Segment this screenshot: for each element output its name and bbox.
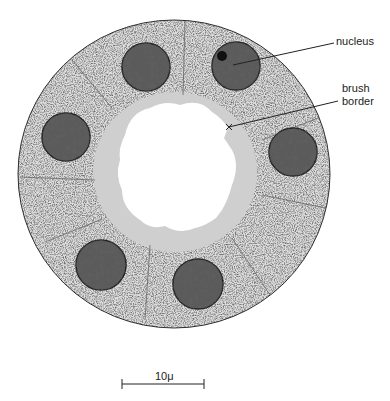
nucleus-3 — [42, 113, 90, 161]
brush-border-label-line2: border — [342, 95, 374, 108]
nucleus-label: nucleus — [336, 35, 374, 48]
nucleus-2 — [212, 42, 260, 90]
nucleus-6 — [173, 259, 223, 309]
tubule-diagram — [0, 0, 390, 401]
nucleus-4 — [269, 128, 317, 176]
nucleus-1 — [122, 43, 170, 91]
scale-bar-label: 10μ — [155, 370, 174, 383]
lumen — [118, 103, 236, 231]
brush-border-label-line1: brush — [342, 82, 370, 95]
nucleus-5 — [76, 240, 126, 290]
